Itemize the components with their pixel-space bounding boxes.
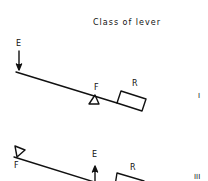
lever-3-beam (14, 157, 120, 181)
lever-3-effort-label: E (92, 151, 97, 159)
lever-diagram: Class of lever (0, 0, 208, 181)
lever-1-fulcrum-label: F (94, 84, 99, 92)
lever-1-resistance-box-icon (117, 91, 146, 111)
lever-1-effort-label: E (16, 40, 21, 48)
lever-class-1 (16, 51, 146, 111)
lever-3-effort-arrowhead-icon (93, 166, 98, 172)
lever-1-effort-arrowhead-icon (17, 64, 22, 70)
lever-drawing (0, 0, 208, 181)
lever-3-fulcrum-icon (15, 146, 25, 157)
lever-3-fulcrum-label: F (14, 162, 19, 170)
lever-1-class-label: I (198, 93, 200, 100)
lever-1-beam (16, 72, 117, 103)
lever-3-class-label: III (194, 174, 200, 181)
lever-1-resistance-label: R (132, 80, 138, 88)
lever-3-resistance-box-icon (114, 173, 144, 181)
lever-class-3 (14, 146, 144, 181)
lever-3-resistance-label: R (130, 164, 136, 172)
